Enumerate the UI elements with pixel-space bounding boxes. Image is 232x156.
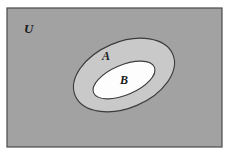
venn-diagram-canvas: U A B — [0, 0, 232, 156]
set-a-label: A — [101, 49, 110, 63]
universal-set-label: U — [24, 21, 34, 36]
venn-diagram-svg: U A B — [0, 0, 232, 156]
set-b-label: B — [119, 73, 128, 87]
